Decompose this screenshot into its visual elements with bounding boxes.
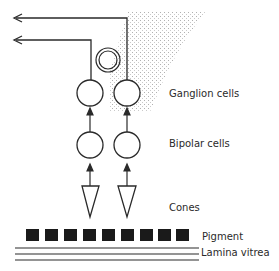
ganglion-cells <box>77 80 140 106</box>
label-lamina-vitrea: Lamina vitrea <box>201 247 270 259</box>
label-bipolar-cells: Bipolar cells <box>169 138 230 150</box>
pigment-layer <box>26 229 189 241</box>
label-ganglion-cells: Ganglion cells <box>169 88 239 100</box>
amacrine-cell <box>96 48 120 72</box>
label-cones: Cones <box>169 202 200 214</box>
label-pigment: Pigment <box>202 231 243 243</box>
bipolar-cells <box>77 132 140 158</box>
cones <box>82 186 136 217</box>
lamina-vitrea-lines <box>15 248 199 260</box>
